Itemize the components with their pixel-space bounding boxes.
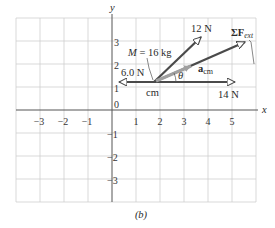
y-tick: −3 [107, 175, 118, 186]
y-tick: −1 [107, 129, 118, 140]
mass-leader-line [147, 58, 153, 80]
x-axis-label: x [261, 104, 267, 115]
figure-caption: (b) [135, 209, 148, 221]
x-tick: −1 [82, 116, 93, 127]
y-tick: 1 [114, 83, 119, 94]
y-tick: 2 [114, 60, 119, 71]
force-6N-label: 6.0 N [121, 67, 145, 78]
cm-label: cm [146, 87, 159, 98]
y-tick: 0 [114, 99, 119, 110]
x-tick: −2 [58, 116, 69, 127]
y-tick: −2 [107, 152, 118, 163]
x-tick: 5 [230, 116, 235, 127]
x-tick: 4 [206, 116, 211, 127]
force-12N-label: 12 N [191, 23, 212, 34]
acceleration-label: acm [198, 63, 214, 76]
x-tick: 2 [158, 116, 163, 127]
x-tick-labels: −3 −2 −1 1 2 3 4 5 [34, 116, 235, 127]
x-tick: −3 [34, 116, 45, 127]
force-diagram: x y −3 −2 −1 1 2 3 4 5 3 2 1 0 −1 −2 −3 … [0, 0, 275, 228]
y-tick-labels: 3 2 1 0 −1 −2 −3 [107, 37, 119, 186]
net-force-leader-line [249, 40, 254, 64]
angle-label: θ [178, 70, 183, 81]
x-tick: 3 [182, 116, 187, 127]
net-force-label: ΣFext [231, 27, 254, 40]
mass-label: M = 16 kg [127, 47, 172, 58]
force-14N-label: 14 N [218, 89, 239, 100]
x-tick: 1 [134, 116, 139, 127]
y-axis-label: y [109, 2, 115, 13]
y-tick: 3 [114, 37, 119, 48]
acceleration-arrow [156, 66, 191, 81]
